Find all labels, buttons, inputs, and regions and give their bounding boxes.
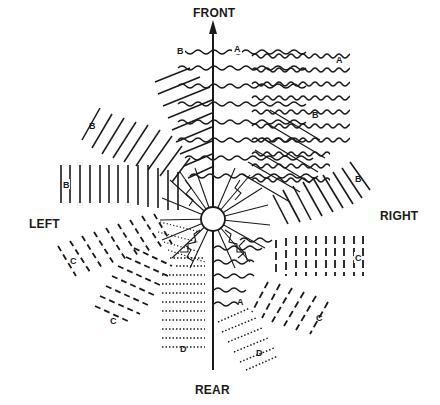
label-c-right-lower: C	[316, 313, 323, 323]
label-b-left-diagonal: B	[89, 121, 96, 131]
label-a-front-right: A	[336, 55, 343, 65]
center-circle	[201, 207, 225, 231]
zone-c-right-dashed-lines	[276, 236, 363, 276]
label-b-right: B	[355, 174, 362, 184]
label-b-left: B	[63, 180, 70, 190]
zone-a-rear-waves	[214, 238, 272, 306]
zone-c-left-dashed-lines	[58, 214, 172, 276]
left-label: LEFT	[29, 217, 60, 231]
center-dotted-scatter	[158, 222, 205, 262]
diagram-canvas: A A B B B B B C C C C D D A	[0, 0, 440, 405]
label-b-front-right: B	[312, 110, 319, 120]
label-c-left-lower: C	[110, 316, 117, 326]
front-label: FRONT	[193, 6, 235, 20]
label-a-rear: A	[237, 297, 244, 307]
zone-c-right-lower-dashed-lines	[252, 282, 328, 334]
rear-label: REAR	[195, 383, 230, 397]
label-c-right: C	[355, 253, 362, 263]
front-arrow-icon	[209, 20, 217, 34]
radial-zone-diagram: A A B B B B B C C C C D D A FRONT REAR L…	[0, 0, 440, 405]
zone-b-left-diagonal-lines	[82, 108, 190, 182]
zone-d-right-dotted-lines	[218, 308, 278, 370]
label-d-right: D	[256, 348, 263, 358]
label-d-left: D	[180, 344, 187, 354]
zone-b-left-vertical-lines	[61, 165, 178, 210]
zone-a-front-waves	[178, 40, 440, 190]
label-a-front: A	[234, 44, 241, 54]
zone-d-left-dotted-lines	[162, 258, 205, 347]
label-c-left: C	[70, 256, 77, 266]
label-b-front-left: B	[177, 46, 184, 56]
front-rear-axis	[209, 20, 217, 370]
right-label: RIGHT	[380, 209, 418, 223]
zone-c-left-lower-dashed-lines	[95, 248, 172, 322]
